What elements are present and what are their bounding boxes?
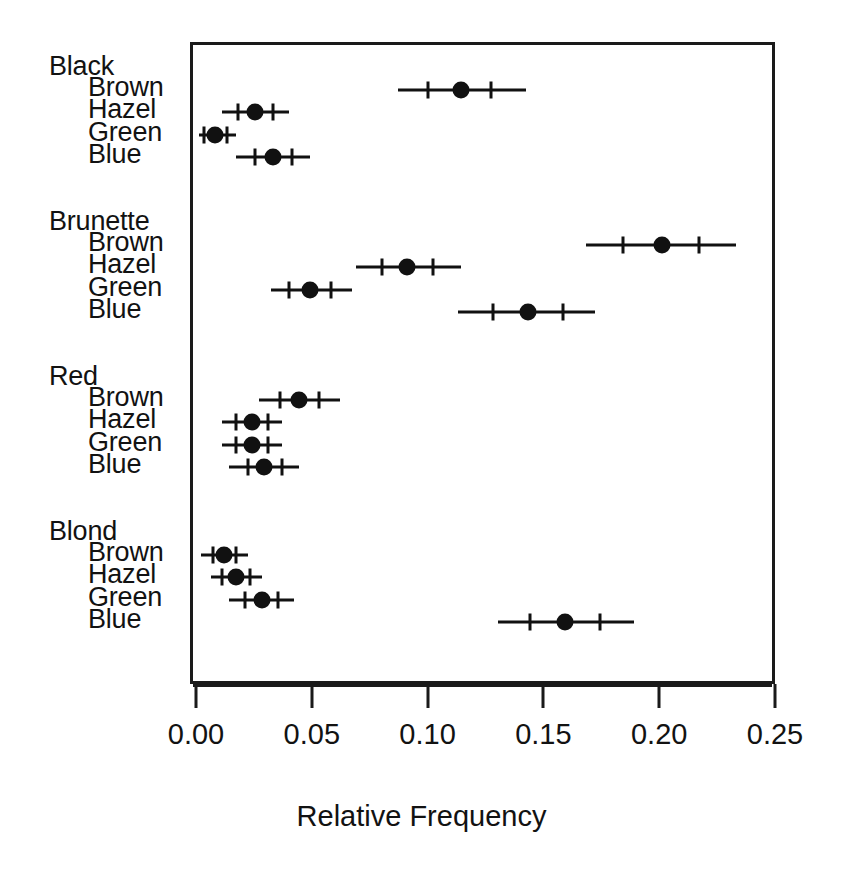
point-estimate-marker xyxy=(654,237,671,254)
ci-inner-tick-high xyxy=(489,82,492,99)
row-label-brunette-blue: Blue xyxy=(88,295,141,322)
ci-inner-tick-high xyxy=(225,126,228,143)
ci-inner-tick-high xyxy=(318,392,321,409)
category-label-column: BlackBrownHazelGreenBlueBrunetteBrownHaz… xyxy=(0,0,190,700)
ci-inner-tick-high xyxy=(267,436,270,453)
ci-inner-tick-high xyxy=(248,569,251,586)
x-axis-tick-2 xyxy=(426,684,429,708)
x-axis-tick-1 xyxy=(310,684,313,708)
ci-inner-tick-low xyxy=(380,259,383,276)
row-label-black-blue: Blue xyxy=(88,140,141,167)
ci-inner-tick-high xyxy=(272,104,275,121)
x-axis: 0.000.050.100.150.200.25 xyxy=(190,684,775,714)
x-axis-tick-label-0: 0.00 xyxy=(168,720,224,749)
plot-panel xyxy=(190,42,775,684)
point-estimate-marker xyxy=(302,281,319,298)
ci-inner-tick-low xyxy=(246,458,249,475)
plot-area xyxy=(193,45,772,681)
ci-inner-tick-low xyxy=(244,591,247,608)
point-estimate-marker xyxy=(452,82,469,99)
x-axis-tick-0 xyxy=(195,684,198,708)
ci-inner-tick-high xyxy=(598,613,601,630)
ci-inner-tick-low xyxy=(253,148,256,165)
point-estimate-marker xyxy=(253,591,270,608)
ci-inner-tick-low xyxy=(211,547,214,564)
x-axis-tick-4 xyxy=(658,684,661,708)
point-estimate-marker xyxy=(246,104,263,121)
point-estimate-marker xyxy=(399,259,416,276)
x-axis-tick-label-4: 0.20 xyxy=(631,720,687,749)
ci-inner-tick-high xyxy=(276,591,279,608)
interval-row-black-blue xyxy=(193,144,772,170)
interval-row-blond-blue xyxy=(193,609,772,635)
row-label-blond-blue: Blue xyxy=(88,605,141,632)
x-axis-tick-label-3: 0.15 xyxy=(515,720,571,749)
ci-inner-tick-low xyxy=(621,237,624,254)
x-axis-tick-label-1: 0.05 xyxy=(284,720,340,749)
x-axis-line xyxy=(193,684,772,687)
ci-inner-tick-high xyxy=(281,458,284,475)
ci-inner-tick-high xyxy=(290,148,293,165)
ci-inner-tick-high xyxy=(330,281,333,298)
point-estimate-marker xyxy=(265,148,282,165)
dot-plot-figure: BlackBrownHazelGreenBlueBrunetteBrownHaz… xyxy=(0,0,843,882)
ci-inner-tick-high xyxy=(267,414,270,431)
ci-inner-tick-high xyxy=(431,259,434,276)
ci-inner-tick-low xyxy=(235,436,238,453)
ci-inner-tick-low xyxy=(427,82,430,99)
ci-inner-tick-low xyxy=(288,281,291,298)
x-axis-tick-3 xyxy=(542,684,545,708)
point-estimate-marker xyxy=(207,126,224,143)
point-estimate-marker xyxy=(216,547,233,564)
ci-inner-tick-low xyxy=(492,303,495,320)
point-estimate-marker xyxy=(244,436,261,453)
x-axis-tick-label-5: 0.25 xyxy=(747,720,803,749)
interval-row-red-blue xyxy=(193,454,772,480)
ci-inner-tick-low xyxy=(237,104,240,121)
ci-inner-tick-high xyxy=(561,303,564,320)
ci-inner-tick-low xyxy=(235,414,238,431)
row-label-red-blue: Blue xyxy=(88,450,141,477)
ci-inner-tick-low xyxy=(221,569,224,586)
ci-inner-tick-high xyxy=(698,237,701,254)
point-estimate-marker xyxy=(290,392,307,409)
ci-inner-tick-low xyxy=(529,613,532,630)
x-axis-tick-label-2: 0.10 xyxy=(399,720,455,749)
x-axis-title: Relative Frequency xyxy=(0,800,843,832)
point-estimate-marker xyxy=(244,414,261,431)
x-axis-tick-5 xyxy=(774,684,777,708)
point-estimate-marker xyxy=(556,613,573,630)
point-estimate-marker xyxy=(519,303,536,320)
ci-inner-tick-high xyxy=(235,547,238,564)
point-estimate-marker xyxy=(228,569,245,586)
point-estimate-marker xyxy=(255,458,272,475)
ci-inner-tick-low xyxy=(202,126,205,143)
ci-inner-tick-low xyxy=(279,392,282,409)
interval-row-brunette-blue xyxy=(193,299,772,325)
